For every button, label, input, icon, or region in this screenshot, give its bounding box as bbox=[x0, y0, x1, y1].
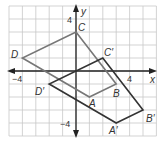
label-b-prime: B′ bbox=[146, 113, 156, 124]
label-a: A bbox=[88, 98, 96, 109]
tick-label-x-4: 4 bbox=[127, 74, 132, 84]
x-axis-label: x bbox=[149, 74, 156, 85]
vertex-labels: A B C D A′ B′ C′ D′ bbox=[11, 22, 156, 136]
tick-label-y-neg4: −4 bbox=[60, 119, 70, 129]
label-b: B bbox=[113, 88, 120, 99]
label-d-prime: D′ bbox=[35, 86, 45, 97]
label-c-prime: C′ bbox=[104, 47, 114, 58]
y-axis-arrow-down-icon bbox=[73, 130, 79, 138]
label-a-prime: A′ bbox=[108, 125, 119, 136]
tick-label-y-4: 4 bbox=[67, 15, 72, 25]
label-d: D bbox=[11, 49, 18, 60]
y-axis-arrow-up-icon bbox=[73, 4, 79, 12]
tick-label-x-neg4: −4 bbox=[12, 74, 22, 84]
coordinate-plane: x y −4 4 4 −4 A B C D A′ B′ C′ D′ bbox=[0, 0, 163, 141]
polygon-a-prime-b-prime-c-prime-d-prime bbox=[49, 58, 143, 123]
label-c: C bbox=[78, 22, 86, 33]
y-axis-label: y bbox=[80, 6, 87, 17]
